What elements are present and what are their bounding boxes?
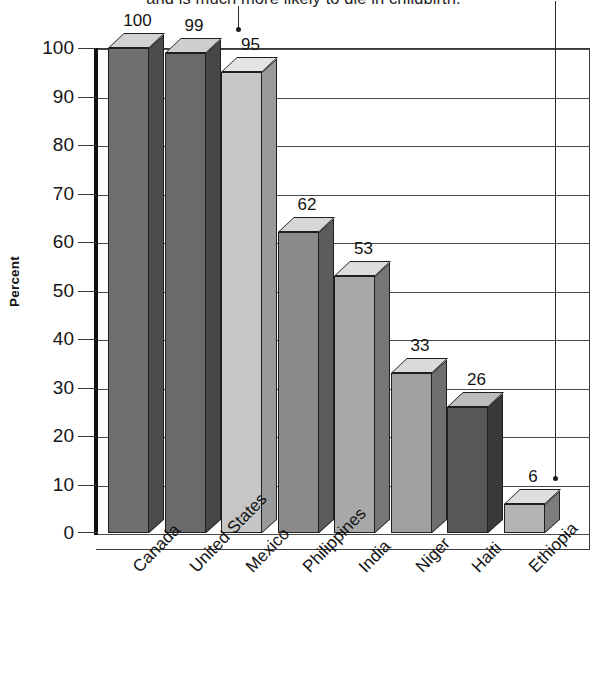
y-tick-label-10: 10: [32, 474, 74, 496]
y-tick-label-30: 30: [32, 377, 74, 399]
bar-side-face: [206, 39, 221, 533]
bar-front-face: [391, 373, 432, 533]
bar-front-face: [165, 53, 206, 533]
bar-value-label: 62: [287, 195, 328, 215]
y-tick-label-80: 80: [32, 134, 74, 156]
bar-united-states: 99: [165, 53, 206, 533]
bar-side-face: [149, 34, 164, 533]
bar-haiti: 26: [447, 407, 488, 533]
bar-india: 53: [334, 276, 375, 533]
y-tick-label-50: 50: [32, 280, 74, 302]
bar-side-face: [375, 262, 390, 533]
bar-side-face: [488, 393, 503, 533]
bar-niger: 33: [391, 373, 432, 533]
arrow-shaft: [555, 1, 556, 478]
bar-value-label: 99: [174, 16, 215, 36]
bar-front-face: [278, 232, 319, 533]
bar-side-face: [432, 359, 447, 533]
bar-front-face: [447, 407, 488, 533]
bar-value-label: 6: [513, 467, 554, 487]
bar-value-label: 100: [117, 11, 158, 31]
bar-mexico: 95: [221, 72, 262, 533]
bar-ethiopia: 6: [504, 504, 545, 533]
y-tick-label-40: 40: [32, 328, 74, 350]
y-axis-spine: [94, 48, 98, 535]
y-axis-title: Percent: [7, 247, 22, 317]
bar-canada: 100: [108, 48, 149, 533]
bar-front-face: [334, 276, 375, 533]
chart-caption: and is much more likely to die in childb…: [0, 0, 607, 8]
y-tick-label-90: 90: [32, 86, 74, 108]
arrow-head-dot: [553, 476, 558, 481]
chart-canvas: and is much more likely to die in childb…: [0, 0, 607, 692]
bar-value-label: 53: [343, 239, 384, 259]
y-tick-label-0: 0: [32, 522, 74, 544]
y-tick-label-100: 100: [32, 37, 74, 59]
y-tick-label-70: 70: [32, 183, 74, 205]
arrow-shaft: [238, 6, 239, 28]
bar-front-face: [221, 72, 262, 533]
bar-value-label: 26: [456, 370, 497, 390]
baseline-stub: [78, 532, 98, 533]
y-tick-label-60: 60: [32, 231, 74, 253]
bar-side-face: [262, 59, 277, 533]
bar-philippines: 62: [278, 232, 319, 533]
bar-value-label: 33: [400, 336, 441, 356]
bar-side-face: [319, 219, 334, 533]
y-tick-label-20: 20: [32, 425, 74, 447]
bar-front-face: [108, 48, 149, 533]
bar-front-face: [504, 504, 545, 533]
bar-value-label: 95: [230, 35, 271, 55]
arrow-head-dot: [236, 27, 241, 32]
